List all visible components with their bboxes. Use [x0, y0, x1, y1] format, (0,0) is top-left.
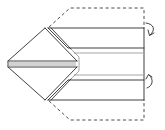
- origami-diagram: [0, 0, 165, 130]
- fold-arrow-bottom-icon: [146, 75, 152, 89]
- middle-strip: [71, 49, 143, 79]
- fold-arrow-top-icon: [146, 23, 154, 36]
- top-strip: [48, 28, 144, 53]
- dashed-outline: [49, 8, 144, 120]
- diamond-point: [8, 28, 77, 100]
